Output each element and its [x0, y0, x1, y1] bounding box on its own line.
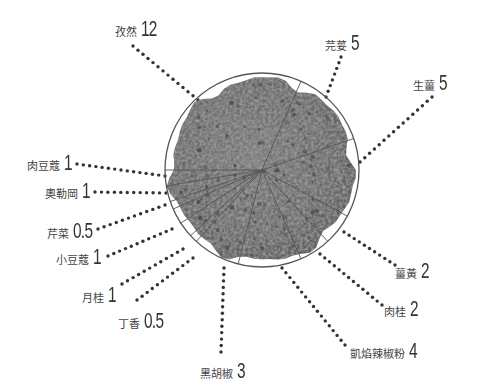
slice-label-clove: 丁香 0.5: [118, 308, 172, 334]
slice-name: 薑黃: [395, 265, 417, 281]
slice-value: 1: [82, 178, 90, 204]
slice-name: 孜然: [115, 23, 137, 39]
slice-name: 肉豆蔻: [27, 157, 60, 173]
slice-label-cumin: 孜然 12: [115, 16, 163, 42]
slice-label-pepper: 黑胡椒 3: [200, 358, 248, 384]
slice-name: 丁香: [118, 315, 140, 331]
slice-value: 1: [108, 282, 116, 308]
slice-value: 1: [64, 150, 72, 176]
powder-pile: [167, 77, 356, 259]
slice-label-coriander: 芫荽 5: [325, 30, 362, 56]
slice-value: 4: [409, 338, 417, 364]
slice-value: 12: [141, 16, 157, 42]
slice-label-cardamom: 小豆蔻 1: [56, 244, 104, 270]
slice-label-cayenne: 凱焰辣椒粉 4: [350, 338, 420, 364]
slice-name: 黑胡椒: [200, 365, 233, 381]
slice-label-nutmeg: 肉豆蔻 1: [27, 150, 75, 176]
slice-name: 奧勒岡: [45, 185, 78, 201]
slice-value: 2: [410, 296, 418, 322]
slice-label-oregano: 奧勒岡 1: [45, 178, 93, 204]
spice-pie-infographic: 孜然 12 芫荽 5 生薑 5 薑黃 2 肉桂 2 凱焰辣椒粉 4 黑胡椒 3 …: [0, 0, 480, 391]
slice-label-ginger: 生薑 5: [413, 70, 450, 96]
slice-name: 芹菜: [47, 225, 69, 241]
slice-value: 5: [439, 70, 447, 96]
slice-name: 芫荽: [325, 37, 347, 53]
slice-name: 小豆蔻: [56, 251, 89, 267]
slice-label-cinnamon: 肉桂 2: [384, 296, 421, 322]
slice-label-turmeric: 薑黃 2: [395, 258, 432, 284]
slice-value: 1: [93, 244, 101, 270]
slice-label-celery: 芹菜 0.5: [47, 218, 101, 244]
slice-name: 凱焰辣椒粉: [350, 345, 405, 361]
slice-value: 0.5: [144, 308, 163, 334]
slice-name: 生薑: [413, 77, 435, 93]
slice-name: 月桂: [82, 289, 104, 305]
slice-value: 2: [421, 258, 429, 284]
slice-value: 0.5: [73, 218, 92, 244]
slice-value: 5: [351, 30, 359, 56]
slice-label-bay: 月桂 1: [82, 282, 119, 308]
slice-value: 3: [237, 358, 245, 384]
slice-name: 肉桂: [384, 303, 406, 319]
